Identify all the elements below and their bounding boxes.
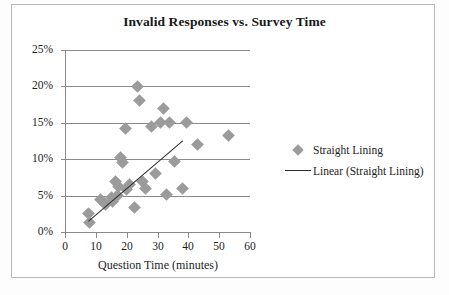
data-point	[168, 155, 181, 168]
y-axis-tick-label: 0%	[13, 225, 53, 237]
x-axis-tick	[127, 233, 128, 238]
data-point	[131, 80, 144, 93]
y-axis-tick-label: 25%	[13, 43, 53, 55]
data-point	[180, 116, 193, 129]
data-point	[119, 122, 132, 135]
x-axis-tick	[219, 233, 220, 238]
data-point	[128, 202, 141, 215]
x-axis-tick	[158, 233, 159, 238]
x-axis-line	[65, 232, 251, 233]
y-axis-tick-label: 15%	[13, 116, 53, 128]
data-point	[157, 102, 170, 115]
x-axis-tick-label: 40	[173, 240, 203, 252]
legend-item-linear-trend: Linear (Straight Lining)	[283, 160, 438, 181]
data-point	[150, 167, 163, 180]
x-axis-title: Question Time (minutes)	[60, 258, 256, 273]
x-axis-tick-label: 60	[235, 240, 265, 252]
x-axis-tick-label: 20	[112, 240, 142, 252]
x-axis-tick	[96, 233, 97, 238]
x-axis-tick-label: 10	[81, 240, 111, 252]
x-axis-tick-label: 30	[143, 240, 173, 252]
data-point	[160, 188, 173, 201]
chart-legend: Straight Lining Linear (Straight Lining)	[283, 139, 438, 181]
data-point	[176, 182, 189, 195]
data-point	[191, 138, 204, 151]
legend-label: Linear (Straight Lining)	[313, 165, 424, 177]
plot-area	[65, 50, 250, 232]
data-point	[163, 116, 176, 129]
x-axis-tick	[188, 233, 189, 238]
diamond-marker-icon	[283, 146, 313, 154]
x-axis-tick	[65, 233, 66, 238]
x-axis-tick-label: 0	[50, 240, 80, 252]
data-point	[222, 129, 235, 142]
y-axis-tick-label: 5%	[13, 189, 53, 201]
y-axis-tick-label: 20%	[13, 79, 53, 91]
y-axis-tick-label: 10%	[13, 152, 53, 164]
data-point	[133, 95, 146, 108]
trend-line-icon	[283, 170, 313, 172]
legend-item-straight-lining: Straight Lining	[283, 139, 438, 160]
chart-screenshot: Invalid Responses vs. Survey Time 0%5%10…	[0, 0, 449, 295]
x-axis-tick-label: 50	[204, 240, 234, 252]
legend-label: Straight Lining	[313, 144, 383, 156]
x-axis-tick	[250, 233, 251, 238]
